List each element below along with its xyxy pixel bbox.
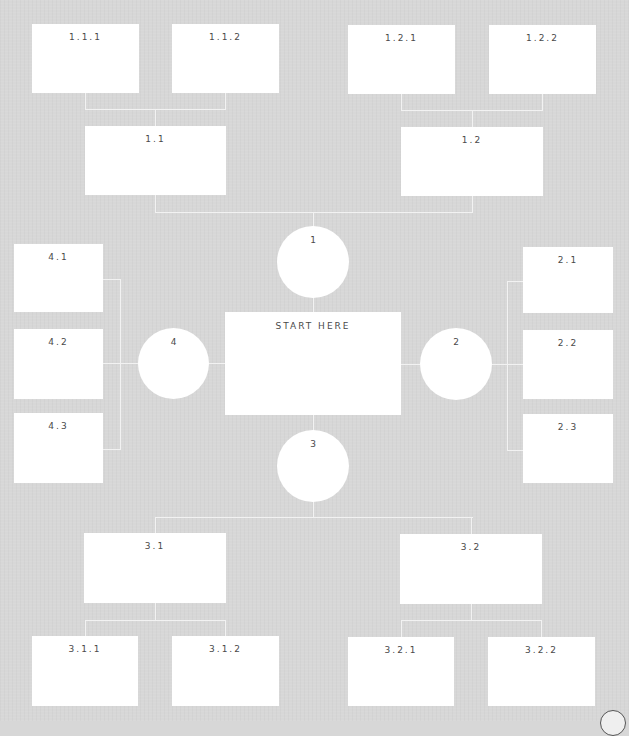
- branch-node-1[interactable]: 1: [277, 226, 349, 298]
- connector: [471, 517, 472, 534]
- branch-node-2[interactable]: 2: [420, 328, 492, 400]
- node-label: 3.2: [400, 542, 542, 552]
- node-label: 3: [277, 439, 349, 449]
- node-label: 4.3: [14, 421, 103, 431]
- connector: [225, 93, 226, 109]
- node-1-2-1[interactable]: 1.2.1: [348, 25, 455, 94]
- node-1-1-1[interactable]: 1.1.1: [32, 24, 139, 93]
- node-label: 1.1: [85, 134, 226, 144]
- node-label: 3.1.2: [172, 644, 279, 654]
- connector: [85, 620, 86, 636]
- connector: [208, 363, 225, 364]
- start-here-node[interactable]: START HERE: [225, 312, 401, 415]
- connector: [155, 517, 156, 533]
- connector: [472, 110, 473, 127]
- node-label: 3.1: [84, 541, 226, 551]
- connector: [225, 620, 226, 636]
- node-label: 3.1.1: [32, 644, 138, 654]
- connector: [541, 620, 542, 637]
- connector: [120, 279, 121, 450]
- node-label: 2.1: [523, 255, 613, 265]
- node-2-1[interactable]: 2.1: [523, 247, 613, 313]
- node-label: 2: [420, 337, 492, 347]
- branch-node-4[interactable]: 4: [138, 328, 209, 399]
- connector: [401, 620, 542, 621]
- connector: [401, 94, 402, 110]
- node-2-3[interactable]: 2.3: [523, 414, 613, 483]
- connector: [542, 94, 543, 110]
- node-1-1-2[interactable]: 1.1.2: [172, 24, 279, 93]
- connector: [155, 109, 156, 126]
- node-label: 4: [138, 337, 209, 347]
- node-label: 3.2.2: [488, 645, 595, 655]
- connector: [401, 364, 420, 365]
- connector: [507, 450, 523, 451]
- connector: [155, 195, 156, 212]
- connector: [507, 281, 508, 451]
- connector: [155, 212, 473, 213]
- node-label: 1: [277, 235, 349, 245]
- connector: [103, 363, 138, 364]
- node-4-1[interactable]: 4.1: [14, 244, 103, 312]
- node-label: 2.2: [523, 338, 613, 348]
- node-label: 1.1.2: [172, 32, 279, 42]
- connector: [155, 603, 156, 620]
- node-1-2[interactable]: 1.2: [401, 127, 543, 196]
- node-3-2[interactable]: 3.2: [400, 534, 542, 604]
- connector: [507, 281, 523, 282]
- node-3-1-1[interactable]: 3.1.1: [32, 636, 138, 706]
- node-label: START HERE: [225, 321, 401, 331]
- branch-node-3[interactable]: 3: [277, 430, 349, 502]
- connector: [103, 449, 120, 450]
- node-1-1[interactable]: 1.1: [85, 126, 226, 195]
- node-4-3[interactable]: 4.3: [14, 413, 103, 483]
- connector: [155, 517, 473, 518]
- connector: [85, 93, 86, 109]
- connector: [472, 196, 473, 212]
- node-label: 1.2.2: [489, 33, 596, 43]
- node-label: 2.3: [523, 422, 613, 432]
- node-label: 1.1.1: [32, 32, 139, 42]
- node-3-2-2[interactable]: 3.2.2: [488, 637, 595, 706]
- connector: [471, 604, 472, 620]
- node-3-2-1[interactable]: 3.2.1: [348, 637, 454, 706]
- connector: [492, 364, 523, 365]
- connector: [103, 279, 120, 280]
- connector: [85, 620, 226, 621]
- node-2-2[interactable]: 2.2: [523, 330, 613, 399]
- node-label: 3.2.1: [348, 645, 454, 655]
- node-3-1[interactable]: 3.1: [84, 533, 226, 603]
- connector: [401, 620, 402, 637]
- node-4-2[interactable]: 4.2: [14, 329, 103, 399]
- node-3-1-2[interactable]: 3.1.2: [172, 636, 279, 706]
- node-label: 4.2: [14, 337, 103, 347]
- node-1-2-2[interactable]: 1.2.2: [489, 25, 596, 94]
- node-label: 1.2.1: [348, 33, 455, 43]
- node-label: 4.1: [14, 252, 103, 262]
- page-corner-circle-icon: [600, 710, 626, 736]
- node-label: 1.2: [401, 135, 543, 145]
